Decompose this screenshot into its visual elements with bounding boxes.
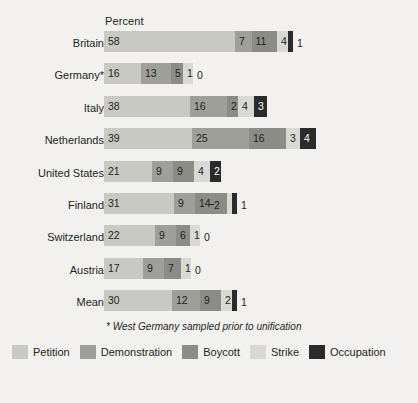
bar-segment-boycott: 7 bbox=[164, 258, 181, 279]
bar-segment-strike: 4 bbox=[194, 161, 210, 182]
legend-item-petition: Petition bbox=[12, 345, 70, 359]
segment-value: 2 bbox=[214, 164, 220, 179]
leader-line bbox=[209, 204, 214, 205]
stacked-bar: 39251634 bbox=[104, 128, 316, 149]
segment-value: 9 bbox=[159, 228, 165, 243]
stacked-bar: 219942 bbox=[104, 161, 221, 182]
chart-rows: Britain5871141Germany*1613510Italy381624… bbox=[0, 29, 418, 321]
bar-segment-occupation bbox=[232, 193, 237, 214]
chart-row: Austria179710 bbox=[0, 256, 418, 288]
segment-value: 16 bbox=[108, 66, 120, 81]
bar-segment-boycott: 9 bbox=[200, 290, 221, 311]
legend-swatch-boycott bbox=[182, 345, 198, 359]
bar-segment-demonstration: 16 bbox=[190, 96, 227, 117]
bar-segment-petition: 21 bbox=[104, 161, 152, 182]
segment-value: 4 bbox=[242, 99, 248, 114]
bar-segment-demonstration: 9 bbox=[152, 161, 173, 182]
bar-segment-demonstration: 9 bbox=[143, 258, 164, 279]
bar-segment-boycott: 16 bbox=[249, 128, 286, 149]
row-label-italy: Italy bbox=[0, 102, 104, 114]
segment-value: 38 bbox=[108, 99, 120, 114]
segment-value: 17 bbox=[108, 261, 120, 276]
legend-item-occupation: Occupation bbox=[309, 345, 386, 359]
bar-segment-demonstration: 9 bbox=[155, 225, 176, 246]
row-label-austria: Austria bbox=[0, 264, 104, 276]
bar-segment-occupation bbox=[232, 290, 237, 311]
chart-row: Mean3012921 bbox=[0, 288, 418, 320]
segment-value-outside: 1 bbox=[297, 36, 303, 51]
legend-swatch-strike bbox=[250, 345, 266, 359]
row-label-germany: Germany* bbox=[0, 69, 104, 81]
chart-row: Germany*1613510 bbox=[0, 61, 418, 93]
bar-segment-occupation: 4 bbox=[300, 128, 316, 149]
bar-segment-boycott: 6 bbox=[176, 225, 190, 246]
bar-segment-demonstration: 9 bbox=[174, 193, 195, 214]
stacked-bar: 161351 bbox=[104, 63, 193, 84]
axis-title-percent: Percent bbox=[105, 15, 144, 27]
legend-label: Petition bbox=[33, 346, 70, 358]
bar-segment-boycott: 9 bbox=[173, 161, 194, 182]
row-label-britain: Britain bbox=[0, 37, 104, 49]
segment-value: 16 bbox=[253, 131, 265, 146]
bar-segment-strike: 4 bbox=[277, 31, 288, 52]
bar-segment-boycott: 5 bbox=[171, 63, 183, 84]
legend-swatch-petition bbox=[12, 345, 28, 359]
legend-label: Boycott bbox=[203, 346, 240, 358]
row-label-netherlands: Netherlands bbox=[0, 134, 104, 146]
segment-value-outside: 1 bbox=[241, 198, 247, 213]
segment-value: 3 bbox=[258, 99, 264, 114]
row-label-united-states: United States bbox=[0, 167, 104, 179]
segment-value: 4 bbox=[198, 164, 204, 179]
stacked-bar: 22961 bbox=[104, 225, 200, 246]
legend-label: Occupation bbox=[330, 346, 386, 358]
bar-segment-petition: 17 bbox=[104, 258, 143, 279]
segment-value-outside: 2 bbox=[214, 198, 220, 213]
stacked-bar-chart: Percent Britain5871141Germany*1613510Ita… bbox=[0, 0, 418, 403]
bar-segment-petition: 58 bbox=[104, 31, 235, 52]
segment-value-outside: 0 bbox=[197, 68, 203, 83]
bar-segment-demonstration: 25 bbox=[192, 128, 249, 149]
segment-value: 9 bbox=[156, 164, 162, 179]
segment-value: 2 bbox=[231, 99, 237, 114]
bar-segment-petition: 38 bbox=[104, 96, 190, 117]
bar-segment-demonstration: 12 bbox=[172, 290, 200, 311]
legend-label: Strike bbox=[271, 346, 299, 358]
legend-label: Demonstration bbox=[101, 346, 173, 358]
bar-segment-strike: 4 bbox=[238, 96, 254, 117]
segment-value: 5 bbox=[175, 66, 181, 81]
bar-segment-strike: 1 bbox=[181, 258, 191, 279]
stacked-bar: 3816243 bbox=[104, 96, 267, 117]
segment-value: 9 bbox=[177, 164, 183, 179]
bar-segment-strike: 1 bbox=[190, 225, 200, 246]
segment-value: 4 bbox=[281, 34, 287, 49]
segment-value: 9 bbox=[204, 293, 210, 308]
segment-value: 11 bbox=[256, 34, 267, 49]
segment-value: 30 bbox=[108, 293, 120, 308]
bar-segment-strike: 1 bbox=[183, 63, 193, 84]
bar-segment-petition: 39 bbox=[104, 128, 192, 149]
bar-segment-boycott: 2 bbox=[227, 96, 238, 117]
segment-value: 58 bbox=[108, 34, 120, 49]
segment-value: 9 bbox=[147, 261, 153, 276]
bar-segment-petition: 31 bbox=[104, 193, 174, 214]
bar-segment-occupation: 3 bbox=[254, 96, 267, 117]
bar-segment-petition: 16 bbox=[104, 63, 141, 84]
bar-segment-strike: 2 bbox=[221, 290, 232, 311]
row-label-switzerland: Switzerland bbox=[0, 231, 104, 243]
row-label-mean: Mean bbox=[0, 296, 104, 308]
chart-row: Britain5871141 bbox=[0, 29, 418, 61]
chart-row: Netherlands39251634 bbox=[0, 126, 418, 158]
bar-segment-occupation bbox=[288, 31, 293, 52]
segment-value: 7 bbox=[168, 261, 174, 276]
segment-value: 6 bbox=[180, 228, 186, 243]
chart-legend: PetitionDemonstrationBoycottStrikeOccupa… bbox=[12, 345, 412, 359]
chart-row: Finland3191421 bbox=[0, 191, 418, 223]
bar-segment-demonstration: 7 bbox=[235, 31, 252, 52]
bar-segment-boycott: 11 bbox=[252, 31, 278, 52]
chart-footnote: * West Germany sampled prior to unificat… bbox=[106, 321, 301, 332]
segment-value-outside: 1 bbox=[241, 295, 247, 310]
legend-item-strike: Strike bbox=[250, 345, 299, 359]
segment-value: 1 bbox=[185, 261, 191, 276]
segment-value: 9 bbox=[178, 196, 184, 211]
chart-row: United States219942 bbox=[0, 159, 418, 191]
